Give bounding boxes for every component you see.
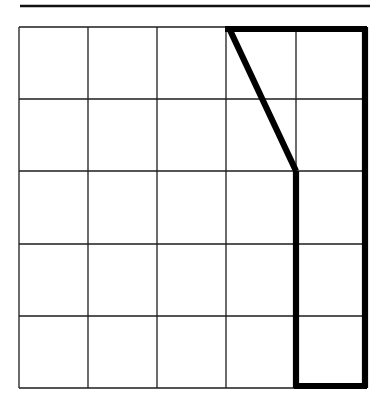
- grid-figure: [0, 0, 386, 408]
- figure-page: Grid with bold outlined region Scanned l…: [0, 0, 386, 408]
- page-background: [0, 0, 386, 408]
